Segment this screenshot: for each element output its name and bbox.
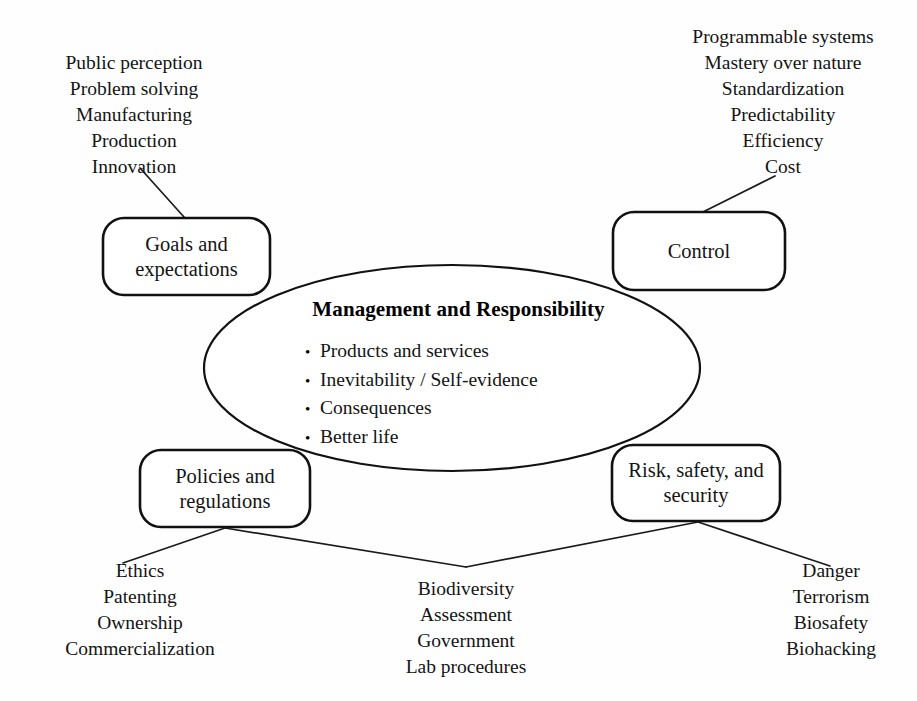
satellite-item: Manufacturing bbox=[14, 102, 254, 128]
core-bullet-text: Products and services bbox=[320, 337, 489, 366]
node-label-line: regulations bbox=[175, 489, 275, 514]
node-label-line: Policies and bbox=[175, 464, 275, 489]
satellite-list-bottom-center: Biodiversity Assessment Government Lab p… bbox=[366, 576, 566, 680]
satellite-item: Innovation bbox=[14, 154, 254, 180]
node-label-line: Control bbox=[668, 239, 731, 264]
bullet-dot-icon: • bbox=[305, 345, 320, 360]
core-bullet-item: • Inevitability / Self-evidence bbox=[305, 366, 538, 395]
bullet-dot-icon: • bbox=[305, 431, 320, 446]
satellite-item: Biodiversity bbox=[366, 576, 566, 602]
bullet-dot-icon: • bbox=[305, 374, 320, 389]
satellite-item: Problem solving bbox=[14, 76, 254, 102]
core-bullet-text: Better life bbox=[320, 423, 399, 452]
satellite-item: Biosafety bbox=[756, 610, 906, 636]
core-heading: Management and Responsibility bbox=[0, 297, 917, 322]
satellite-item: Assessment bbox=[366, 602, 566, 628]
node-label-line: security bbox=[628, 483, 763, 508]
leader-line-bottom-right-inner bbox=[466, 522, 698, 567]
bullet-dot-icon: • bbox=[305, 402, 320, 417]
satellite-item: Ethics bbox=[30, 558, 250, 584]
satellite-item: Commercialization bbox=[30, 636, 250, 662]
satellite-item: Standardization bbox=[651, 76, 915, 102]
satellite-item: Biohacking bbox=[756, 636, 906, 662]
node-label-line: Goals and bbox=[135, 232, 237, 257]
satellite-item: Production bbox=[14, 128, 254, 154]
satellite-item: Mastery over nature bbox=[651, 50, 915, 76]
leader-line-bottom-left-inner bbox=[225, 528, 466, 567]
satellite-item: Ownership bbox=[30, 610, 250, 636]
satellite-list-bottom-right: Danger Terrorism Biosafety Biohacking bbox=[756, 558, 906, 662]
node-label-risk[interactable]: Risk, safety, and security bbox=[608, 445, 784, 521]
node-label-policies[interactable]: Policies and regulations bbox=[140, 450, 310, 527]
core-bullet-text: Inevitability / Self-evidence bbox=[320, 366, 538, 395]
core-bullet-item: • Better life bbox=[305, 423, 538, 452]
node-label-goals[interactable]: Goals and expectations bbox=[103, 218, 270, 295]
core-bullet-item: • Consequences bbox=[305, 394, 538, 423]
satellite-item: Cost bbox=[651, 154, 915, 180]
node-label-line: expectations bbox=[135, 257, 237, 282]
satellite-item: Programmable systems bbox=[651, 24, 915, 50]
satellite-list-top-left: Public perception Problem solving Manufa… bbox=[14, 50, 254, 180]
satellite-list-top-right: Programmable systems Mastery over nature… bbox=[651, 24, 915, 180]
satellite-item: Danger bbox=[756, 558, 906, 584]
core-bullet-list: • Products and services • Inevitability … bbox=[305, 337, 538, 452]
core-bullet-item: • Products and services bbox=[305, 337, 538, 366]
satellite-item: Public perception bbox=[14, 50, 254, 76]
satellite-list-bottom-left: Ethics Patenting Ownership Commercializa… bbox=[30, 558, 250, 662]
leader-line-top-right bbox=[701, 176, 775, 213]
satellite-item: Terrorism bbox=[756, 584, 906, 610]
satellite-item: Government bbox=[366, 628, 566, 654]
satellite-item: Predictability bbox=[651, 102, 915, 128]
satellite-item: Lab procedures bbox=[366, 654, 566, 680]
satellite-item: Patenting bbox=[30, 584, 250, 610]
diagram-canvas: Public perception Problem solving Manufa… bbox=[0, 0, 917, 701]
node-label-line: Risk, safety, and bbox=[628, 458, 763, 483]
core-bullet-text: Consequences bbox=[320, 394, 432, 423]
node-label-control[interactable]: Control bbox=[613, 212, 785, 290]
satellite-item: Efficiency bbox=[651, 128, 915, 154]
